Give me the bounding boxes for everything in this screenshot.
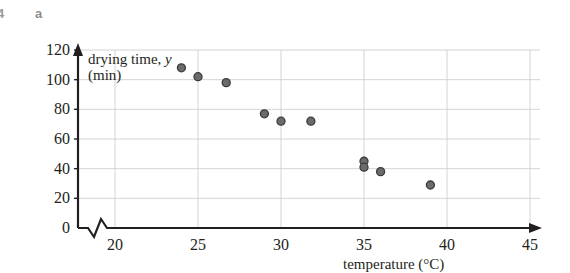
- data-point: [222, 79, 230, 87]
- data-point: [426, 181, 434, 189]
- x-axis-line-with-break: [78, 219, 531, 237]
- y-axis-tick-label: 40: [36, 161, 70, 177]
- data-point: [277, 117, 285, 125]
- data-point: [360, 163, 368, 171]
- y-axis-variable-symbol: y: [165, 51, 172, 67]
- y-axis-tick-label: 100: [36, 72, 70, 88]
- x-axis-tick-label: 20: [95, 237, 135, 253]
- x-axis-tick-label: 35: [344, 237, 384, 253]
- x-axis-tick-label: 30: [261, 237, 301, 253]
- y-axis-title-units: (min): [88, 68, 172, 84]
- y-axis-tick-label: 20: [36, 190, 70, 206]
- x-axis-tick-label: 45: [510, 237, 550, 253]
- data-point: [177, 64, 185, 72]
- x-axis-arrowhead: [529, 223, 542, 233]
- x-axis-tick-label: 40: [427, 237, 467, 253]
- y-axis-tick-label: 80: [36, 101, 70, 117]
- x-axis-tick-label: 25: [178, 237, 218, 253]
- x-axis-title: temperature (°C): [343, 256, 444, 273]
- data-point: [377, 168, 385, 176]
- data-point: [260, 110, 268, 118]
- data-points: [177, 64, 434, 189]
- data-point: [307, 117, 315, 125]
- y-axis-title: drying time, y(min): [88, 52, 172, 84]
- data-point: [194, 73, 202, 81]
- y-axis-tick-label: 0: [36, 220, 70, 236]
- y-axis-title-line1: drying time, y: [88, 52, 172, 68]
- y-axis-title-text: drying time,: [88, 51, 165, 67]
- y-axis-tick-label: 120: [36, 42, 70, 58]
- y-axis-tick-label: 60: [36, 131, 70, 147]
